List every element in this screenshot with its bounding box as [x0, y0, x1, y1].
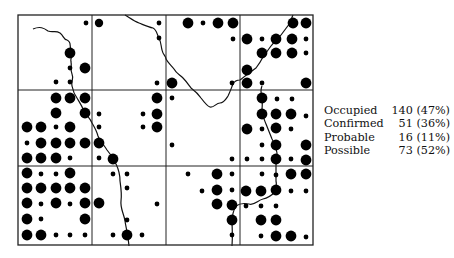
legend-value: 51 (36%)	[399, 117, 450, 130]
occurrence-dot	[80, 93, 91, 104]
occurrence-dot	[260, 143, 265, 148]
occurrence-dot	[36, 138, 47, 149]
occurrence-dot	[289, 189, 294, 194]
occurrence-dot	[54, 125, 59, 130]
occurrence-dot	[95, 19, 103, 27]
occurrence-dot	[54, 172, 59, 177]
occurrence-dot	[157, 36, 162, 41]
occurrence-dot	[39, 202, 44, 207]
occurrence-dot	[22, 198, 33, 209]
occurrence-dot	[141, 112, 146, 117]
occurrence-dot	[289, 157, 294, 162]
occurrence-dot	[289, 127, 294, 132]
river-path	[33, 28, 129, 246]
occurrence-dot	[167, 78, 178, 89]
occurrence-dot	[256, 186, 267, 197]
occurrence-dot	[286, 231, 297, 242]
legend-row-occupied: Occupied 140 (47%)	[324, 104, 450, 117]
legend: Occupied 140 (47%) Confirmed 51 (36%) Pr…	[324, 104, 450, 158]
occurrence-dot	[271, 34, 282, 45]
occurrence-dot	[242, 78, 253, 89]
occurrence-dot	[186, 172, 191, 177]
occurrence-dot	[304, 235, 309, 240]
legend-row-possible: Possible 73 (52%)	[324, 144, 450, 157]
occurrence-dot	[304, 114, 309, 119]
occurrence-dot	[36, 183, 47, 194]
occurrence-dot	[65, 48, 76, 59]
occurrence-dot	[80, 183, 91, 194]
occurrence-dot	[286, 169, 297, 180]
occurrence-dot	[22, 230, 33, 241]
occurrence-dot	[242, 34, 253, 45]
occurrence-dot	[36, 122, 47, 133]
occurrence-dot	[244, 204, 249, 209]
occurrence-dot	[301, 140, 312, 151]
occurrence-dot	[80, 63, 91, 74]
occurrence-dot	[155, 81, 160, 86]
occurrence-dot	[51, 108, 62, 119]
occurrence-dot	[257, 48, 268, 59]
occurrence-dot	[200, 189, 205, 194]
occurrence-dot	[259, 204, 264, 209]
legend-row-confirmed: Confirmed 51 (36%)	[324, 117, 450, 130]
occurrence-dot	[288, 18, 299, 29]
occurrence-dot	[230, 188, 235, 193]
occurrence-dot	[271, 109, 282, 120]
occurrence-dot	[275, 97, 280, 102]
occurrence-dot	[80, 198, 91, 209]
occurrence-dot	[304, 51, 309, 56]
occurrence-dot	[80, 214, 91, 225]
occurrence-dot	[36, 230, 47, 241]
occurrence-dot	[51, 93, 62, 104]
occurrence-dot	[25, 141, 30, 146]
occurrence-dot	[108, 154, 119, 165]
occurrence-dot	[157, 21, 162, 26]
occurrence-dot	[97, 112, 102, 117]
occurrence-dot	[260, 172, 265, 177]
occurrence-dot	[39, 172, 44, 177]
occurrence-dot	[212, 169, 223, 180]
occurrence-dot	[22, 122, 33, 133]
occurrence-dot	[228, 18, 239, 29]
occurrence-dot	[170, 143, 175, 148]
occurrence-dot	[212, 185, 223, 196]
occurrence-dot	[141, 125, 146, 130]
occurrence-dot	[122, 230, 133, 241]
occurrence-dot	[301, 155, 312, 166]
occurrence-dot	[271, 123, 282, 134]
occurrence-dot	[152, 93, 163, 104]
occurrence-dot	[22, 168, 33, 179]
occurrence-dot	[304, 37, 309, 42]
occurrence-dot	[68, 156, 73, 161]
occurrence-dot	[125, 218, 130, 223]
occurrence-dot	[94, 138, 105, 149]
occurrence-dot	[301, 78, 312, 89]
legend-value: 140 (47%)	[391, 104, 450, 117]
occurrence-dot	[84, 21, 89, 26]
occurrence-dot	[242, 65, 253, 76]
occurrence-dot	[231, 37, 236, 42]
occurrence-dot	[65, 183, 76, 194]
occurrence-dot	[230, 81, 235, 86]
occurrence-dot	[65, 122, 76, 133]
occurrence-dot	[212, 199, 223, 210]
occurrence-dot	[94, 198, 105, 209]
occurrence-dot	[301, 18, 312, 29]
occurrence-dot	[80, 138, 91, 149]
occurrence-dot	[271, 185, 282, 196]
occurrence-dot	[152, 109, 163, 120]
occurrence-dot	[227, 200, 238, 211]
occurrence-dot	[260, 81, 265, 86]
occurrence-dot	[257, 93, 268, 104]
occurrence-dot	[271, 140, 282, 151]
occurrence-dot	[287, 48, 298, 59]
occurrence-dot	[68, 80, 73, 85]
occurrence-dot	[97, 156, 102, 161]
occurrence-dot	[290, 97, 295, 102]
occurrence-dot	[274, 204, 279, 209]
occurrence-dot	[271, 215, 282, 226]
legend-value: 73 (52%)	[399, 144, 450, 157]
occurrence-dot	[304, 189, 309, 194]
occurrence-dot	[227, 215, 238, 226]
occurrence-dot	[68, 233, 73, 238]
